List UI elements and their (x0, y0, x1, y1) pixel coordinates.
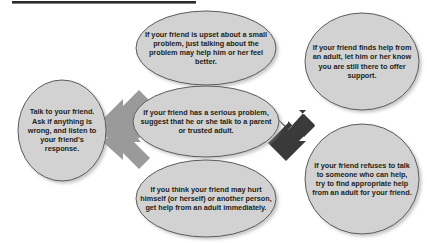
top-rule (12, 1, 196, 4)
flowchart-diagram: Talk to your friend. Ask if anything is … (0, 0, 427, 243)
node-finds-help (305, 13, 419, 110)
node-serious-problem (133, 86, 279, 157)
node-hurt-self (136, 160, 276, 237)
diagram-canvas (0, 0, 427, 243)
node-refuses-help (305, 124, 419, 234)
node-start (18, 80, 106, 181)
node-small-problem (136, 11, 276, 85)
